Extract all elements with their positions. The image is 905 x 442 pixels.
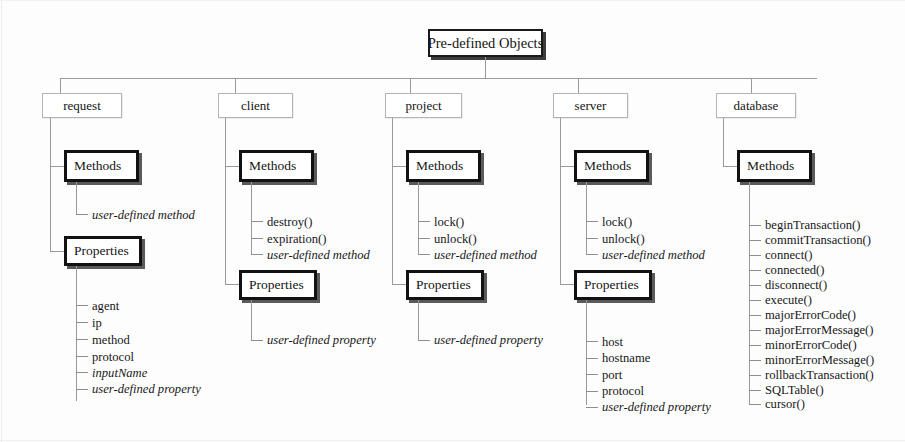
connector-tick-server-property-3 [586,391,598,392]
node-client-properties[interactable]: Properties [239,270,317,300]
connector-spine-project [392,118,393,284]
connector-spine-database [723,118,724,166]
node-request[interactable]: request [42,93,122,118]
leaf-database-method-8: minorErrorCode() [765,339,857,352]
connector-spine-client-methods [251,182,252,255]
node-client-label: client [241,98,270,114]
leaf-database-method-3: connected() [765,264,824,277]
connector-drop-server [578,78,579,93]
connector-spine-database-methods [749,182,750,404]
connector-drop-client [235,78,236,93]
connector-tick-server-property-0 [586,341,598,342]
connector-tick-database-method-11 [749,390,761,391]
leaf-database-method-6: majorErrorCode() [765,309,856,322]
connector-tick-project-method-2 [418,254,430,255]
connector-tick-client-method-0 [251,221,263,222]
node-server-methods-label: Methods [584,158,631,174]
connector-spine-request-methods [76,182,77,214]
leaf-server-property-0: host [602,336,623,349]
node-server-properties[interactable]: Properties [574,270,652,300]
node-project-properties-label: Properties [416,277,471,293]
leaf-project-method-2: user-defined method [434,249,537,262]
connector-spine-request-properties [76,266,77,401]
diagram-canvas: Pre-defined Objects request Methods user… [0,0,905,442]
node-project-methods-label: Methods [416,158,463,174]
leaf-server-method-1: unlock() [602,233,645,246]
connector-spine-server-methods [586,182,587,255]
leaf-client-property-0: user-defined property [267,334,376,347]
connector-spine-server-properties [586,300,587,405]
node-server-properties-label: Properties [584,277,639,293]
leaf-request-property-4: inputName [92,367,147,380]
node-request-properties[interactable]: Properties [64,236,142,266]
connector-spine-server [560,118,561,284]
leaf-project-property-0: user-defined property [434,334,543,347]
connector-tick-database-method-5 [749,300,761,301]
connector-spine-request [50,118,51,251]
node-server-methods[interactable]: Methods [574,150,649,182]
node-client-properties-label: Properties [249,277,304,293]
leaf-request-property-5: user-defined property [92,383,201,396]
leaf-server-property-1: hostname [602,352,650,365]
node-request-methods-label: Methods [74,158,121,174]
node-request-label: request [63,98,101,114]
connector-tick-server-method-2 [586,254,598,255]
leaf-client-method-2: user-defined method [267,249,370,262]
leaf-database-method-2: connect() [765,249,813,262]
leaf-request-property-2: method [92,334,130,347]
node-database-methods[interactable]: Methods [737,150,812,182]
connector-tick-project-method-0 [418,221,430,222]
connector-drop-project [410,78,411,93]
connector-root-drop [485,57,486,78]
node-project-methods[interactable]: Methods [406,150,481,182]
connector-tick-database-method-1 [749,240,761,241]
connector-spine-project-methods [418,182,419,255]
node-project-properties[interactable]: Properties [406,270,484,300]
connector-tick-database-method-9 [749,360,761,361]
leaf-database-method-5: execute() [765,294,812,307]
leaf-database-method-9: minorErrorMessage() [765,354,874,367]
connector-tick-client-method-2 [251,254,263,255]
node-root-label: Pre-defined Objects [428,35,544,52]
node-client-methods-label: Methods [249,158,296,174]
connector-tick-server-method-0 [586,221,598,222]
connector-drop-database [751,78,752,93]
leaf-client-method-0: destroy() [267,216,312,229]
connector-spine-client [225,118,226,284]
leaf-request-property-1: ip [92,317,102,330]
connector-tick-server-property-2 [586,374,598,375]
node-server[interactable]: server [553,93,628,118]
node-root[interactable]: Pre-defined Objects [428,29,543,57]
connector-tick-client-method-1 [251,238,263,239]
leaf-server-method-2: user-defined method [602,249,705,262]
node-request-methods[interactable]: Methods [64,150,139,182]
connector-tick-project-method-1 [418,238,430,239]
leaf-server-property-4: user-defined property [602,401,711,414]
connector-tick-database-method-8 [749,345,761,346]
leaf-database-method-1: commitTransaction() [765,234,871,247]
node-database-methods-label: Methods [747,158,794,174]
connector-tick-request-property-5 [76,389,88,390]
leaf-project-method-1: unlock() [434,233,477,246]
connector-tick-request-property-3 [76,356,88,357]
node-project[interactable]: project [385,93,462,118]
node-client[interactable]: client [218,93,293,118]
node-database-label: database [734,98,779,114]
leaf-database-method-11: SQLTable() [765,384,824,397]
leaf-database-method-0: beginTransaction() [765,219,860,232]
connector-tick-database-method-12 [749,404,761,405]
leaf-database-method-7: majorErrorMessage() [765,324,873,337]
leaf-request-property-0: agent [92,300,119,313]
node-client-methods[interactable]: Methods [239,150,314,182]
scan-artifact-left-edge [1,0,2,442]
node-database[interactable]: database [716,93,796,118]
connector-tick-database-method-0 [749,225,761,226]
connector-tick-request-property-2 [76,339,88,340]
connector-tick-client-property-0 [251,340,263,341]
connector-drop-request [60,78,61,93]
connector-tick-server-property-1 [586,358,598,359]
leaf-server-property-3: protocol [602,385,644,398]
connector-spine-project-properties [418,300,419,340]
connector-tick-database-method-4 [749,285,761,286]
leaf-project-method-0: lock() [434,216,464,229]
